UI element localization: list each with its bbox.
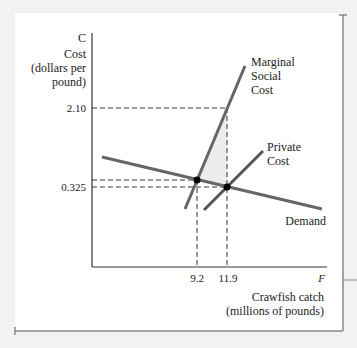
chart: C Cost (dollars per pound) 2.10 0.325 9.… [0, 0, 357, 348]
private-cost-label-line-1: Private [267, 140, 301, 154]
y-tick-0-325: 0.325 [61, 181, 86, 193]
market-equilibrium-point [224, 184, 231, 191]
x-title-line-2: (millions of pounds) [226, 304, 324, 318]
x-axis-symbol: F [317, 272, 325, 284]
msc-label-line-1: Marginal [251, 55, 295, 69]
demand-label: Demand [285, 214, 326, 228]
x-tick-11-9: 11.9 [219, 272, 238, 284]
x-tick-9-2: 9.2 [190, 272, 204, 284]
x-title-line-1: Crawfish catch [252, 290, 324, 304]
msc-label-line-2: Social [251, 69, 282, 83]
y-title-line-2: (dollars per [31, 61, 86, 75]
y-tick-2-10: 2.10 [67, 102, 87, 114]
social-optimum-point [194, 177, 201, 184]
y-axis-symbol: C [78, 31, 86, 45]
y-title-line-1: Cost [64, 47, 87, 61]
y-title-line-3: pound) [52, 75, 86, 89]
msc-label-line-3: Cost [251, 83, 274, 97]
private-cost-label-line-2: Cost [267, 154, 290, 168]
